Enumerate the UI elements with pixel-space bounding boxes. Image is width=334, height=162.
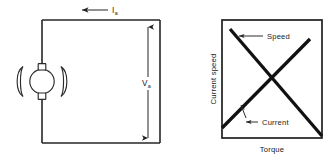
motor-brush-top xyxy=(38,64,46,70)
current-label: Current xyxy=(262,118,289,127)
speed-label: Speed xyxy=(267,32,290,41)
motor-armature-circle xyxy=(30,69,54,93)
armature-voltage-label: Va xyxy=(142,79,151,89)
y-axis-label: Current speed xyxy=(209,54,218,105)
motor-brush-bottom xyxy=(38,93,46,99)
motor-field-pole-left xyxy=(17,67,23,97)
armature-current-label: Ia xyxy=(112,6,118,16)
figure-root: Ia Va Speed xyxy=(0,0,334,162)
characteristic-plot: Speed Current Current speed Torque xyxy=(209,20,322,154)
dc-motor-symbol xyxy=(17,64,67,100)
motor-field-pole-right xyxy=(61,67,67,97)
circuit-diagram: Ia Va xyxy=(17,6,160,143)
figure-canvas: Ia Va Speed xyxy=(0,0,334,162)
x-axis-label: Torque xyxy=(260,145,284,154)
